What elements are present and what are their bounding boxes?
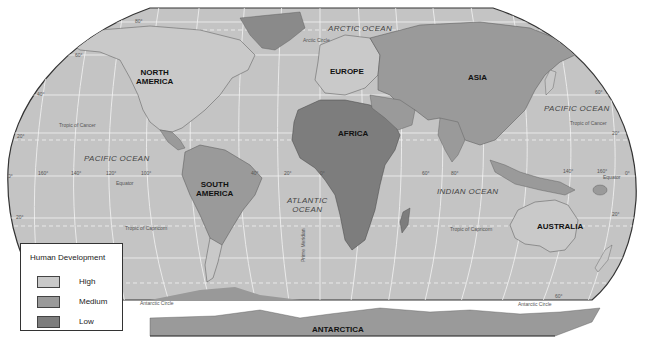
deg-80n: 80° bbox=[135, 18, 143, 24]
label-australia: AUSTRALIA bbox=[537, 222, 583, 231]
deg-20s-east: 20° bbox=[612, 211, 620, 217]
deg-40n-west: 40° bbox=[37, 91, 45, 97]
label-antarctic-circle-west: Antarctic Circle bbox=[140, 300, 174, 306]
label-europe: EUROPE bbox=[330, 67, 364, 76]
deg-60n-west: 60° bbox=[75, 52, 83, 58]
label-arctic-circle: Arctic Circle bbox=[303, 37, 330, 43]
deg-40w: 40° bbox=[251, 170, 259, 176]
label-equator-east: Equator bbox=[603, 174, 621, 180]
label-pacific-ocean-west: PACIFIC OCEAN bbox=[84, 154, 150, 163]
label-antarctica: ANTARCTICA bbox=[312, 325, 364, 334]
deg-100w: 100° bbox=[141, 170, 151, 176]
deg-20s-west: 20° bbox=[16, 214, 24, 220]
deg-20w: 20° bbox=[284, 170, 292, 176]
deg-20n-west: 20° bbox=[17, 133, 25, 139]
label-arctic-ocean: ARCTIC OCEAN bbox=[328, 24, 392, 33]
deg-0-east: 0° bbox=[625, 170, 630, 176]
legend: Human Development High Medium Low bbox=[20, 243, 123, 331]
legend-swatch-high bbox=[37, 276, 60, 288]
deg-140e: 140° bbox=[563, 168, 573, 174]
legend-label-medium: Medium bbox=[79, 297, 107, 306]
label-atlantic-ocean: ATLANTIC OCEAN bbox=[287, 196, 327, 214]
deg-0-lon: 0° bbox=[320, 170, 325, 176]
antarctica-band bbox=[150, 308, 600, 336]
deg-160w: 160° bbox=[38, 170, 48, 176]
label-tropic-capricorn-west: Tropic of Capricorn bbox=[125, 225, 167, 231]
label-south-america: SOUTH AMERICA bbox=[196, 180, 233, 198]
deg-0-west: 0° bbox=[8, 173, 13, 179]
label-asia: ASIA bbox=[468, 73, 487, 82]
label-africa: AFRICA bbox=[338, 129, 368, 138]
legend-swatch-low bbox=[37, 316, 60, 328]
legend-label-low: Low bbox=[79, 317, 94, 326]
deg-60n-east: 60° bbox=[595, 89, 603, 95]
legend-swatch-medium bbox=[37, 296, 60, 308]
label-prime-meridian: Prime Meridian bbox=[300, 228, 306, 262]
deg-80e: 80° bbox=[451, 170, 459, 176]
label-tropic-capricorn-east: Tropic of Capricorn bbox=[450, 226, 492, 232]
label-indian-ocean: INDIAN OCEAN bbox=[437, 187, 498, 196]
label-pacific-ocean-east: PACIFIC OCEAN bbox=[544, 104, 610, 113]
deg-140w: 140° bbox=[71, 170, 81, 176]
label-antarctic-circle-east: Antarctic Circle bbox=[518, 301, 552, 307]
label-equator-west: Equator bbox=[116, 180, 134, 186]
deg-60s-east: 60° bbox=[555, 293, 563, 299]
legend-title: Human Development bbox=[30, 253, 105, 262]
label-tropic-cancer-west: Tropic of Cancer bbox=[59, 122, 96, 128]
deg-160e: 160° bbox=[597, 168, 607, 174]
deg-120w: 120° bbox=[106, 170, 116, 176]
deg-20n-east: 20° bbox=[612, 130, 620, 136]
deg-60e: 60° bbox=[422, 170, 430, 176]
legend-label-high: High bbox=[79, 277, 95, 286]
label-tropic-cancer-east: Tropic of Cancer bbox=[570, 120, 607, 126]
label-north-america: NORTH AMERICA bbox=[136, 68, 173, 86]
